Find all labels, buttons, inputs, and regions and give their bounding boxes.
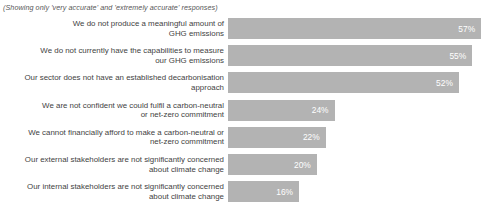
bar-category-label: Our external stakeholders are not signif… bbox=[0, 155, 228, 174]
bar-track: 20% bbox=[228, 154, 503, 175]
chart-subtitle: (Showing only 'very accurate' and 'extre… bbox=[3, 3, 218, 12]
bar-row: Our internal stakeholders are not signif… bbox=[0, 181, 503, 202]
bar-track: 52% bbox=[228, 72, 503, 93]
bar-track: 16% bbox=[228, 181, 503, 202]
bar-category-label: Our sector does not have an established … bbox=[0, 73, 228, 92]
bar-fill: 57% bbox=[228, 18, 481, 39]
bar-value-label: 20% bbox=[294, 160, 311, 170]
bar-value-label: 55% bbox=[449, 51, 466, 61]
chart-plot-area: We do not produce a meaningful amount of… bbox=[0, 17, 503, 213]
bar-value-label: 24% bbox=[312, 105, 329, 115]
bar-track: 57% bbox=[228, 18, 503, 39]
bar-fill: 52% bbox=[228, 72, 459, 93]
bar-row: Our sector does not have an established … bbox=[0, 72, 503, 93]
bar-fill: 22% bbox=[228, 127, 326, 148]
bar-category-label: We cannot financially afford to make a c… bbox=[0, 128, 228, 147]
bar-value-label: 57% bbox=[458, 24, 475, 34]
bar-row: Our external stakeholders are not signif… bbox=[0, 154, 503, 175]
bar-track: 22% bbox=[228, 127, 503, 148]
bar-row: We cannot financially afford to make a c… bbox=[0, 127, 503, 148]
bar-row: We do not currently have the capabilitie… bbox=[0, 45, 503, 66]
bar-fill: 20% bbox=[228, 154, 317, 175]
bar-category-label: We do not produce a meaningful amount of… bbox=[0, 19, 228, 38]
bar-value-label: 52% bbox=[436, 78, 453, 88]
bar-category-label: We are not confident we could fulfil a c… bbox=[0, 101, 228, 120]
bar-category-label: Our internal stakeholders are not signif… bbox=[0, 182, 228, 201]
bar-value-label: 22% bbox=[303, 132, 320, 142]
bar-row: We do not produce a meaningful amount of… bbox=[0, 18, 503, 39]
bar-row: We are not confident we could fulfil a c… bbox=[0, 100, 503, 121]
bar-fill: 55% bbox=[228, 45, 472, 66]
bar-fill: 16% bbox=[228, 181, 299, 202]
bar-value-label: 16% bbox=[276, 187, 293, 197]
bar-track: 24% bbox=[228, 100, 503, 121]
horizontal-bar-chart: (Showing only 'very accurate' and 'extre… bbox=[0, 0, 503, 213]
bar-category-label: We do not currently have the capabilitie… bbox=[0, 46, 228, 65]
bar-fill: 24% bbox=[228, 100, 335, 121]
bar-track: 55% bbox=[228, 45, 503, 66]
